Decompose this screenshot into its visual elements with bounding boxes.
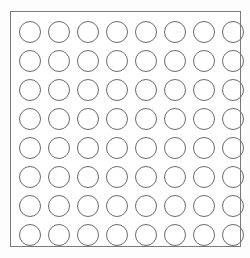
pad-cell[interactable]: [218, 220, 247, 249]
pad-cell[interactable]: [15, 17, 44, 46]
pad-circle-icon: [193, 21, 215, 43]
pad-circle-icon: [48, 50, 70, 72]
pad-cell[interactable]: [131, 191, 160, 220]
pad-cell[interactable]: [15, 162, 44, 191]
pad-cell[interactable]: [102, 75, 131, 104]
pad-circle-icon: [164, 79, 186, 101]
pad-cell[interactable]: [102, 133, 131, 162]
pad-circle-icon: [193, 79, 215, 101]
pad-cell[interactable]: [102, 104, 131, 133]
pad-cell[interactable]: [73, 133, 102, 162]
pad-circle-icon: [193, 195, 215, 217]
pad-circle-icon: [106, 108, 128, 130]
pad-circle-icon: [77, 108, 99, 130]
pad-circle-icon: [222, 137, 244, 159]
pad-circle-icon: [19, 166, 41, 188]
pad-circle-icon: [135, 50, 157, 72]
pad-cell[interactable]: [189, 46, 218, 75]
pad-circle-icon: [48, 79, 70, 101]
pad-cell[interactable]: [131, 17, 160, 46]
pad-cell[interactable]: [160, 17, 189, 46]
pad-cell[interactable]: [131, 75, 160, 104]
pad-circle-icon: [106, 50, 128, 72]
pad-circle-icon: [193, 108, 215, 130]
pad-circle-icon: [222, 50, 244, 72]
pad-cell[interactable]: [160, 133, 189, 162]
pad-cell[interactable]: [102, 46, 131, 75]
pad-cell[interactable]: [15, 46, 44, 75]
pad-cell[interactable]: [218, 104, 247, 133]
pad-cell[interactable]: [218, 75, 247, 104]
pad-cell[interactable]: [160, 162, 189, 191]
pad-circle-icon: [135, 195, 157, 217]
pad-cell[interactable]: [44, 191, 73, 220]
pad-cell[interactable]: [160, 191, 189, 220]
pad-cell[interactable]: [131, 46, 160, 75]
pad-cell[interactable]: [160, 75, 189, 104]
pad-circle-icon: [164, 21, 186, 43]
pad-circle-icon: [48, 137, 70, 159]
pad-cell[interactable]: [15, 104, 44, 133]
pad-cell[interactable]: [44, 104, 73, 133]
diagram-canvas: [0, 0, 250, 258]
pad-circle-icon: [164, 224, 186, 246]
pad-cell[interactable]: [102, 220, 131, 249]
pad-cell[interactable]: [15, 220, 44, 249]
pad-cell[interactable]: [218, 191, 247, 220]
pad-circle-icon: [19, 108, 41, 130]
pad-circle-icon: [77, 79, 99, 101]
pad-circle-icon: [19, 195, 41, 217]
pad-circle-icon: [48, 195, 70, 217]
pad-cell[interactable]: [44, 162, 73, 191]
pad-cell[interactable]: [73, 162, 102, 191]
pad-cell[interactable]: [131, 104, 160, 133]
pad-cell[interactable]: [73, 46, 102, 75]
pad-circle-icon: [106, 21, 128, 43]
pad-cell[interactable]: [218, 162, 247, 191]
pad-cell[interactable]: [189, 162, 218, 191]
pad-cell[interactable]: [189, 191, 218, 220]
pad-cell[interactable]: [218, 133, 247, 162]
pad-cell[interactable]: [15, 133, 44, 162]
pad-circle-icon: [135, 166, 157, 188]
pad-cell[interactable]: [44, 75, 73, 104]
pad-cell[interactable]: [73, 220, 102, 249]
pad-cell[interactable]: [44, 133, 73, 162]
pad-cell[interactable]: [15, 191, 44, 220]
pad-cell[interactable]: [44, 220, 73, 249]
pad-cell[interactable]: [131, 133, 160, 162]
pad-circle-icon: [19, 224, 41, 246]
pad-circle-icon: [48, 224, 70, 246]
pad-cell[interactable]: [131, 220, 160, 249]
pad-cell[interactable]: [44, 46, 73, 75]
pad-cell[interactable]: [160, 104, 189, 133]
pad-cell[interactable]: [102, 17, 131, 46]
pad-cell[interactable]: [218, 46, 247, 75]
pad-cell[interactable]: [189, 220, 218, 249]
pad-circle-icon: [222, 195, 244, 217]
pad-circle-icon: [222, 224, 244, 246]
pad-circle-icon: [77, 224, 99, 246]
pad-cell[interactable]: [73, 75, 102, 104]
pad-cell[interactable]: [44, 17, 73, 46]
pad-cell[interactable]: [73, 104, 102, 133]
pad-circle-icon: [222, 108, 244, 130]
pad-cell[interactable]: [73, 191, 102, 220]
pad-cell[interactable]: [160, 46, 189, 75]
pad-circle-icon: [48, 21, 70, 43]
pad-cell[interactable]: [102, 191, 131, 220]
pad-cell[interactable]: [218, 17, 247, 46]
pad-cell[interactable]: [189, 17, 218, 46]
pad-circle-icon: [19, 79, 41, 101]
pad-circle-icon: [77, 195, 99, 217]
pad-circle-icon: [135, 79, 157, 101]
pad-cell[interactable]: [73, 17, 102, 46]
pad-circle-icon: [135, 108, 157, 130]
pad-cell[interactable]: [15, 75, 44, 104]
pad-cell[interactable]: [131, 162, 160, 191]
pad-cell[interactable]: [189, 104, 218, 133]
pad-cell[interactable]: [160, 220, 189, 249]
pad-cell[interactable]: [189, 75, 218, 104]
pad-cell[interactable]: [102, 162, 131, 191]
pad-cell[interactable]: [189, 133, 218, 162]
